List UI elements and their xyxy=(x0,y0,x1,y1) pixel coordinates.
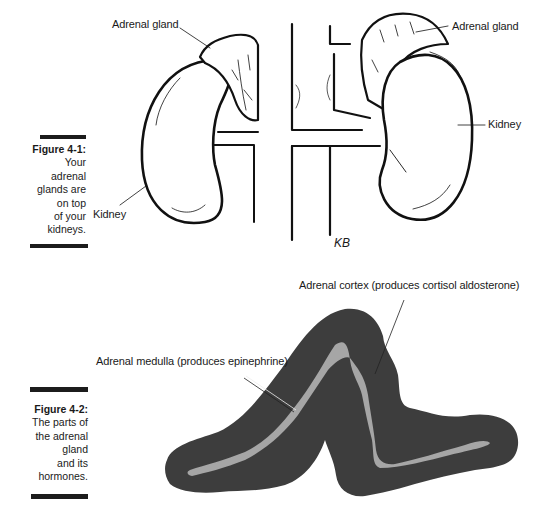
label-adrenal-medulla: Adrenal medulla (produces epinephrine) xyxy=(96,355,288,367)
label-adrenal-cortex: Adrenal cortex (produces cortisol aldost… xyxy=(299,279,519,291)
adrenal-gland-cross-section xyxy=(0,0,538,518)
